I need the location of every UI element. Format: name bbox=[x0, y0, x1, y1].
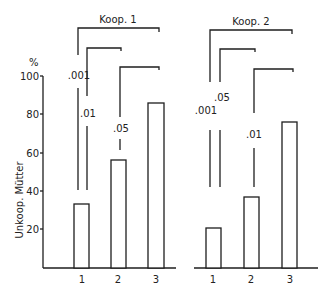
y-tick-label-80: 80 bbox=[26, 109, 39, 120]
bar-2 bbox=[111, 160, 126, 268]
x-label-2: 2 bbox=[115, 274, 121, 285]
panel-title: Koop. 2 bbox=[232, 16, 269, 27]
bar-2 bbox=[244, 197, 259, 268]
bar-3 bbox=[282, 122, 297, 268]
figure: % 100 80 60 40 20 Unkoop. Mütter 1 2 3 K… bbox=[0, 0, 333, 299]
bar-3 bbox=[148, 103, 164, 268]
y-tick-label-100: 100 bbox=[20, 71, 39, 82]
significance-bracket-1-3: .001 bbox=[195, 30, 292, 187]
y-tick-label-20: 20 bbox=[26, 224, 39, 235]
bar-1 bbox=[74, 204, 89, 268]
y-axis: % 100 80 60 40 20 Unkoop. Mütter bbox=[14, 57, 43, 268]
x-label-1: 1 bbox=[210, 274, 216, 285]
p-value-label: .05 bbox=[113, 123, 129, 134]
x-label-1: 1 bbox=[79, 274, 85, 285]
bar-1 bbox=[206, 228, 221, 268]
x-label-3: 3 bbox=[153, 274, 159, 285]
p-value-label: .01 bbox=[80, 108, 96, 119]
p-value-label: .05 bbox=[214, 92, 230, 103]
x-label-2: 2 bbox=[248, 274, 254, 285]
significance-bracket-1-2: .05 bbox=[214, 49, 255, 187]
panel-koop-1: 1 2 3 Koop. 1 .001 .01 .05 bbox=[43, 14, 176, 285]
y-tick-label-40: 40 bbox=[26, 186, 39, 197]
y-axis-title: Unkoop. Mütter bbox=[14, 161, 25, 239]
panel-koop-2: 1 2 3 Koop. 2 .001 .05 .01 bbox=[194, 16, 318, 285]
x-label-3: 3 bbox=[287, 274, 293, 285]
p-value-label: .01 bbox=[246, 129, 262, 140]
y-unit-label: % bbox=[29, 57, 39, 68]
panel-title: Koop. 1 bbox=[99, 14, 136, 25]
p-value-label: .001 bbox=[195, 105, 217, 116]
y-tick-label-60: 60 bbox=[26, 148, 39, 159]
